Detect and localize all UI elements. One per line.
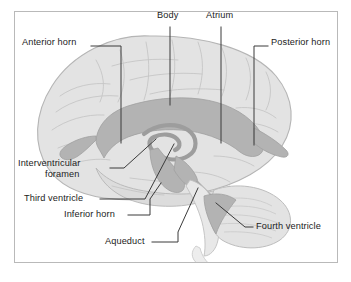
label-atrium: Atrium xyxy=(206,10,233,21)
label-aqueduct: Aqueduct xyxy=(105,236,145,247)
label-interventricular-foramen-line1: Interventricular xyxy=(18,158,80,169)
label-interventricular-foramen-line2: foramen xyxy=(45,169,79,180)
ventricular-system-figure: Anterior horn Body Atrium Posterior horn… xyxy=(0,0,351,282)
label-posterior-horn: Posterior horn xyxy=(271,37,330,48)
label-fourth-ventricle: Fourth ventricle xyxy=(256,221,321,232)
label-third-ventricle: Third ventricle xyxy=(24,193,83,204)
label-anterior-horn: Anterior horn xyxy=(22,37,76,48)
label-body: Body xyxy=(157,10,178,21)
label-inferior-horn: Inferior horn xyxy=(64,209,115,220)
